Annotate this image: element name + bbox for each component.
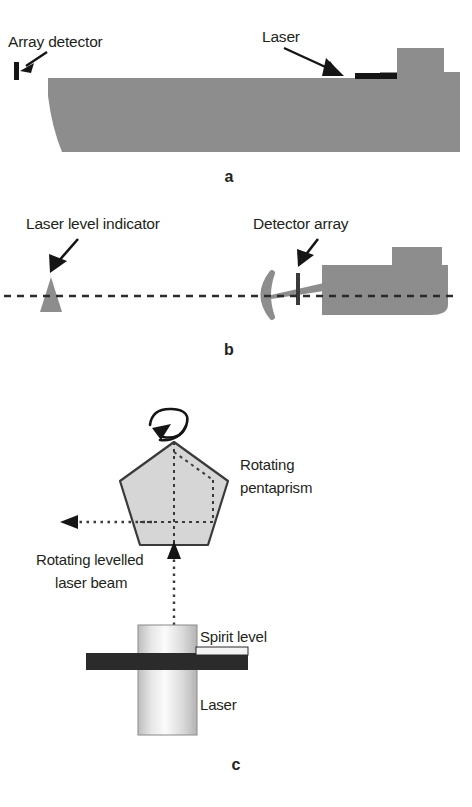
panel-c-letter: c bbox=[232, 756, 241, 773]
panel-a: Array detector Laser a bbox=[0, 0, 472, 195]
figure-root: Array detector Laser a bbox=[0, 0, 472, 807]
machine-rear-deck bbox=[380, 72, 460, 152]
array-detector-bar bbox=[14, 62, 19, 80]
panel-a-letter: a bbox=[225, 168, 234, 185]
detector-array-arrow-icon bbox=[297, 239, 318, 267]
indicator-cone bbox=[40, 277, 62, 312]
array-detector-arrow-icon bbox=[20, 52, 47, 73]
rotating-levelled-laser-beam-label-line1: Rotating levelled bbox=[36, 551, 144, 568]
rotating-pentaprism-label-line1: Rotating bbox=[240, 456, 294, 473]
laser-level-indicator-arrow-icon bbox=[49, 239, 78, 273]
input-beam bbox=[167, 541, 181, 625]
array-detector-label: Array detector bbox=[8, 33, 103, 50]
panel-c: Rotating pentaprism Rotating levelled la… bbox=[0, 370, 472, 807]
spirit-level-bar bbox=[86, 653, 248, 670]
panel-b-letter: b bbox=[224, 341, 234, 358]
rotating-levelled-laser-beam-label-line2: laser beam bbox=[55, 574, 127, 591]
machine-cab bbox=[397, 48, 444, 78]
rotating-pentaprism-label-line2: pentaprism bbox=[240, 479, 312, 496]
laser-cylinder bbox=[138, 625, 197, 735]
machine-cab bbox=[392, 247, 442, 269]
detector-mast bbox=[296, 273, 300, 305]
rotation-arrow-icon bbox=[150, 409, 187, 440]
laser-bar bbox=[355, 73, 397, 79]
spirit-level-label: Spirit level bbox=[200, 628, 267, 645]
panel-b: Laser level indicator Detector array b bbox=[0, 195, 472, 370]
laser-label: Laser bbox=[200, 696, 237, 713]
spirit-level-vial bbox=[196, 647, 248, 655]
detector-array-label: Detector array bbox=[253, 215, 349, 232]
laser-label: Laser bbox=[262, 28, 300, 45]
laser-arrow-icon bbox=[284, 48, 344, 76]
machine-track bbox=[322, 295, 448, 315]
laser-level-indicator-label: Laser level indicator bbox=[26, 215, 160, 232]
